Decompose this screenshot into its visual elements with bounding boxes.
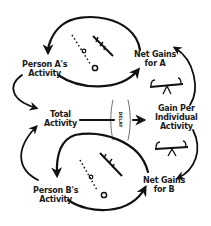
arrow-netgains-a-to-a (48, 17, 140, 52)
node-label: Net Gains (134, 50, 176, 59)
node-label: Person A's (22, 60, 67, 69)
arrow-a-to-total (13, 75, 36, 108)
node-net-gains-b: Net Gains for B (143, 176, 185, 194)
arrow-a-to-netgains-a (58, 70, 138, 86)
node-label: Activity (155, 122, 198, 131)
delay-mark-right (128, 100, 130, 140)
reinforcing-loop-a-icon (72, 35, 113, 71)
delay-label: DELAY (118, 112, 123, 128)
node-total-activity: Total Activity (44, 110, 77, 128)
reinforcing-loop-b-icon (80, 153, 122, 198)
node-gain-per-individual: Gain Per Individual Activity (155, 104, 198, 131)
node-label: for A (134, 59, 176, 68)
arrow-gainper-to-netgains-a (175, 48, 195, 105)
arrow-b-to-netgains-b (68, 188, 145, 210)
node-label: for B (143, 185, 185, 194)
node-label: Activity (33, 195, 78, 204)
arrow-b-to-total (21, 127, 38, 180)
node-label: Individual (155, 113, 198, 122)
balance-seesaw-top-icon (150, 78, 183, 94)
node-label: Activity (44, 119, 77, 128)
node-label: Net Gains (143, 176, 185, 185)
node-label: Gain Per (155, 104, 198, 113)
node-net-gains-a: Net Gains for A (134, 50, 176, 68)
node-label: Total (44, 110, 77, 119)
node-label: Person B's (33, 186, 78, 195)
arrow-gainper-to-netgains-b (178, 130, 197, 178)
node-person-a: Person A's Activity (22, 60, 67, 78)
node-person-b: Person B's Activity (33, 186, 78, 204)
balance-seesaw-bottom-icon (155, 141, 188, 156)
causal-loop-diagram: Person A's Activity Net Gains for A Tota… (0, 0, 211, 226)
node-label: Activity (22, 69, 67, 78)
